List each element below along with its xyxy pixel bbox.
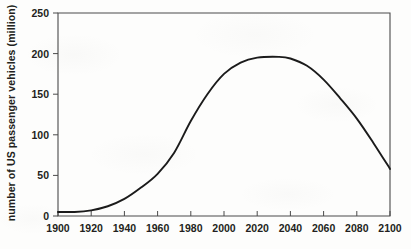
chart-figure: number of US passenger vehicles (million… [0, 0, 411, 249]
x-axis-ticks [58, 211, 390, 216]
x-tick-label: 1960 [146, 222, 170, 234]
y-tick-label: 0 [43, 210, 49, 222]
x-tick-label: 2020 [246, 222, 270, 234]
data-curve [58, 57, 390, 212]
x-tick-labels: 1900 1920 1940 1960 1980 2000 2020 2040 … [46, 222, 402, 234]
y-tick-label: 150 [31, 88, 49, 100]
x-tick-label: 1900 [46, 222, 70, 234]
line-chart-plot: 0 50 100 150 200 250 1900 1920 1940 1 [0, 0, 411, 249]
x-tick-label: 2080 [345, 222, 369, 234]
x-tick-label: 2040 [279, 222, 303, 234]
plot-frame [58, 13, 390, 216]
x-tick-label: 1920 [80, 222, 104, 234]
x-tick-label: 2100 [378, 222, 402, 234]
y-tick-label: 250 [31, 7, 49, 19]
x-tick-label: 1980 [179, 222, 203, 234]
y-axis-ticks [53, 13, 58, 216]
y-tick-labels: 0 50 100 150 200 250 [31, 7, 49, 222]
x-tick-label: 1940 [113, 222, 137, 234]
y-tick-label: 200 [31, 48, 49, 60]
y-tick-label: 50 [37, 169, 49, 181]
x-tick-label: 2060 [312, 222, 336, 234]
y-tick-label: 100 [31, 129, 49, 141]
x-tick-label: 2000 [212, 222, 236, 234]
